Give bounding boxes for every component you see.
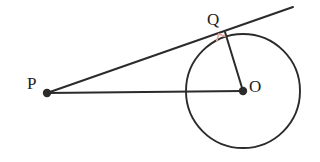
tangent-circle-diagram: P Q O xyxy=(0,0,320,162)
point-q-label: Q xyxy=(207,10,219,29)
point-p-label: P xyxy=(27,74,36,93)
geometry-figure-container: P Q O xyxy=(0,0,320,162)
point-o-dot xyxy=(239,87,247,95)
diagram-background xyxy=(0,0,320,162)
point-o-label: O xyxy=(249,77,261,96)
point-p-dot xyxy=(43,89,51,97)
